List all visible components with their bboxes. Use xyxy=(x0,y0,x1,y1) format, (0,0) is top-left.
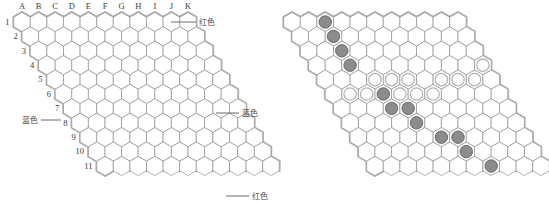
light-stone[interactable] xyxy=(402,73,414,85)
light-stone[interactable] xyxy=(468,73,480,85)
dark-stone[interactable] xyxy=(336,45,348,57)
dark-stone[interactable] xyxy=(435,131,447,143)
edge-label-left-blue: 蓝色 xyxy=(22,115,38,125)
figure-root: ABCDEFGHIJK1234567891011 红色红色蓝色蓝色 xyxy=(0,0,549,218)
row-label-3: 3 xyxy=(22,46,26,56)
column-label-G: G xyxy=(119,1,125,11)
row-label-6: 6 xyxy=(47,89,51,99)
dark-stone[interactable] xyxy=(452,131,464,143)
column-label-C: C xyxy=(52,1,58,11)
dark-stone[interactable] xyxy=(410,117,422,129)
light-stone[interactable] xyxy=(394,88,406,100)
row-label-5: 5 xyxy=(38,74,42,84)
edge-label-top-red: 红色 xyxy=(199,17,215,27)
dark-stone[interactable] xyxy=(319,16,331,28)
row-label-4: 4 xyxy=(30,60,35,70)
row-label-7: 7 xyxy=(55,103,59,113)
light-stone[interactable] xyxy=(344,88,356,100)
light-stone[interactable] xyxy=(452,73,464,85)
row-label-1: 1 xyxy=(5,17,9,27)
hex-board-figure: ABCDEFGHIJK1234567891011 红色红色蓝色蓝色 xyxy=(0,0,549,218)
dark-stone[interactable] xyxy=(377,88,389,100)
light-stone[interactable] xyxy=(477,59,489,71)
edge-label-bottom-red: 红色 xyxy=(252,191,268,201)
row-label-10: 10 xyxy=(76,146,85,156)
row-label-9: 9 xyxy=(72,132,76,142)
column-label-F: F xyxy=(103,1,108,11)
row-label-11: 11 xyxy=(84,161,92,171)
column-label-K: K xyxy=(185,1,192,11)
dark-stone[interactable] xyxy=(460,145,472,157)
column-label-I: I xyxy=(153,1,156,11)
dark-stone[interactable] xyxy=(344,59,356,71)
column-label-A: A xyxy=(19,1,26,11)
column-label-D: D xyxy=(69,1,75,11)
light-stone[interactable] xyxy=(361,88,373,100)
dark-stone[interactable] xyxy=(485,160,497,172)
column-label-E: E xyxy=(86,1,91,11)
row-label-2: 2 xyxy=(13,31,17,41)
light-stone[interactable] xyxy=(385,73,397,85)
column-label-H: H xyxy=(135,1,141,11)
dark-stone[interactable] xyxy=(327,30,339,42)
row-label-8: 8 xyxy=(63,118,67,128)
dark-stone[interactable] xyxy=(402,102,414,114)
dark-stone[interactable] xyxy=(385,102,397,114)
light-stone[interactable] xyxy=(410,88,422,100)
light-stone[interactable] xyxy=(435,73,447,85)
column-label-B: B xyxy=(36,1,42,11)
edge-label-right-blue: 蓝色 xyxy=(242,108,258,118)
light-stone[interactable] xyxy=(427,88,439,100)
light-stone[interactable] xyxy=(369,73,381,85)
